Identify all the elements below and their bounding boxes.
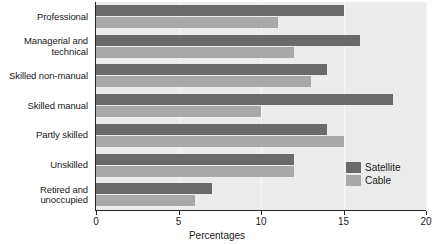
category-axis: ProfessionalManagerial andtechnicalSkill… xyxy=(0,0,92,212)
category-label: Retired andunoccupied xyxy=(0,185,88,206)
category-label-line: Managerial and xyxy=(0,36,88,47)
bar-group xyxy=(96,91,426,121)
x-axis-title: Percentages xyxy=(0,230,434,241)
bar-group xyxy=(96,2,426,32)
category-label: Skilled manual xyxy=(0,101,88,112)
x-tick-label: 5 xyxy=(164,216,194,227)
category-label-line: technical xyxy=(0,47,88,58)
x-tick xyxy=(426,211,427,215)
y-axis-line xyxy=(95,2,96,211)
legend-item-satellite: Satellite xyxy=(346,161,401,174)
legend-item-cable: Cable xyxy=(346,174,401,187)
bar-satellite xyxy=(96,5,344,16)
bar-cable xyxy=(96,106,261,117)
bar-cable xyxy=(96,136,344,147)
category-label: Skilled non-manual xyxy=(0,71,88,82)
bar-group xyxy=(96,61,426,91)
chart-legend: Satellite Cable xyxy=(346,161,401,187)
x-tick xyxy=(96,211,97,215)
legend-label-cable: Cable xyxy=(365,175,391,186)
category-label: Professional xyxy=(0,12,88,23)
x-tick xyxy=(179,211,180,215)
bar-cable xyxy=(96,17,278,28)
x-tick xyxy=(261,211,262,215)
category-label: Managerial andtechnical xyxy=(0,36,88,57)
bar-chart: ProfessionalManagerial andtechnicalSkill… xyxy=(0,0,434,244)
x-tick-label: 20 xyxy=(411,216,434,227)
category-label-line: Skilled non-manual xyxy=(0,71,88,82)
category-label-line: Partly skilled xyxy=(0,130,88,141)
bar-cable xyxy=(96,47,294,58)
category-label: Unskilled xyxy=(0,160,88,171)
bar-satellite xyxy=(96,64,327,75)
x-tick-label: 10 xyxy=(246,216,276,227)
bar-group xyxy=(96,32,426,62)
category-label: Partly skilled xyxy=(0,130,88,141)
x-tick-label: 0 xyxy=(81,216,111,227)
category-label-line: Unskilled xyxy=(0,160,88,171)
legend-swatch-satellite xyxy=(346,162,361,173)
bar-cable xyxy=(96,166,294,177)
gridline xyxy=(426,2,427,210)
bar-group xyxy=(96,121,426,151)
bar-cable xyxy=(96,76,311,87)
bar-satellite xyxy=(96,94,393,105)
bar-satellite xyxy=(96,183,212,194)
legend-swatch-cable xyxy=(346,175,361,186)
bar-cable xyxy=(96,195,195,206)
bar-satellite xyxy=(96,35,360,46)
legend-label-satellite: Satellite xyxy=(365,162,401,173)
x-tick-label: 15 xyxy=(329,216,359,227)
category-label-line: Professional xyxy=(0,12,88,23)
x-tick xyxy=(344,211,345,215)
category-label-line: Skilled manual xyxy=(0,101,88,112)
bar-satellite xyxy=(96,154,294,165)
category-label-line: unoccupied xyxy=(0,195,88,206)
bar-satellite xyxy=(96,124,327,135)
